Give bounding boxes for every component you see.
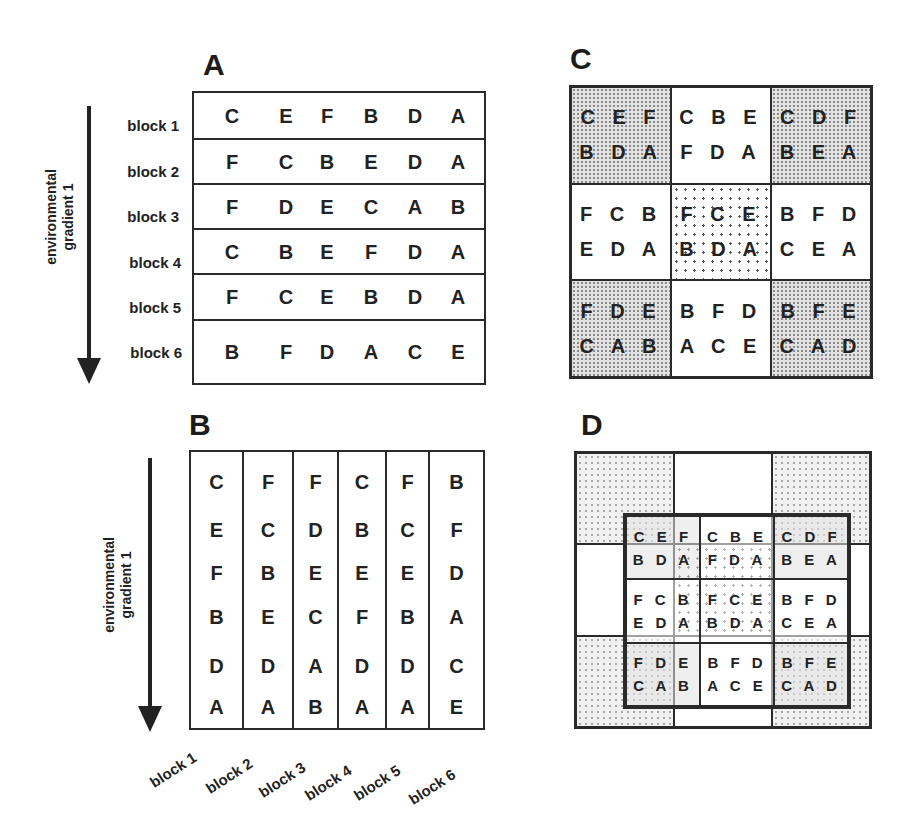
block-plot: C D F B E A: [771, 87, 871, 184]
gradient-arrow-down-icon: [138, 706, 162, 732]
block-label: block 2: [203, 754, 256, 796]
block-plot: F C E B D A: [700, 579, 774, 642]
plot-top-row: F C E: [708, 591, 766, 608]
gradient-arrow-shaft: [148, 458, 152, 712]
plot-cell: F: [401, 471, 413, 494]
block-plot: F C B E D A: [626, 579, 700, 642]
block-label: block 5: [101, 299, 181, 316]
block-row: F C B E D A: [194, 138, 484, 183]
plot-top-row: B F E: [780, 300, 861, 323]
plot-cell: C: [209, 471, 223, 494]
block-column: F C B E D A: [242, 452, 292, 728]
block-plot: C E F B D A: [571, 87, 671, 184]
axis-label-line1: environmental: [43, 147, 60, 287]
plot-bottom-row: B E A: [781, 551, 840, 568]
block-row: F C E B D A: [194, 273, 484, 318]
plot-bottom-row: E D A: [580, 238, 663, 261]
plot-cell: B: [400, 606, 414, 629]
plot-bottom-row: E D A: [633, 614, 692, 631]
block-plot: B F E C A D: [774, 643, 848, 706]
plot-bottom-row: B D A: [633, 551, 693, 568]
block-row: C B E F D A: [194, 228, 484, 273]
plot-cell: F: [226, 195, 238, 218]
plot-bottom-row: C E A: [780, 238, 863, 261]
plot-cell: A: [451, 104, 465, 127]
plot-top-row: C E F: [580, 106, 661, 129]
panel-c-label: C: [570, 42, 592, 76]
plot-cell: E: [355, 562, 368, 585]
plot-cell: D: [408, 104, 422, 127]
plot-top-row: C B E: [707, 528, 767, 545]
plot-cell: B: [261, 562, 275, 585]
plot-top-row: F C E: [680, 203, 761, 226]
panel-c-grid: C E F B D A C B E F D A C D F B E A F C …: [569, 85, 873, 379]
panel-d-label: D: [581, 408, 603, 442]
plot-cell: F: [450, 519, 462, 542]
plot-bottom-row: A C E: [707, 677, 766, 694]
plot-bottom-row: B D A: [707, 614, 767, 631]
plot-top-row: C D F: [781, 528, 840, 545]
block-column: B F D A C E: [428, 452, 483, 728]
block-plot: C B E F D A: [671, 87, 771, 184]
plot-cell: B: [451, 195, 465, 218]
plot-top-row: B F D: [680, 300, 762, 323]
block-plot: B F D A C E: [671, 280, 771, 377]
plot-cell: E: [451, 341, 464, 364]
block-label: block 1: [99, 117, 179, 134]
plot-cell: A: [451, 285, 465, 308]
block-column: C E F B D A: [191, 452, 242, 728]
plot-bottom-row: C E A: [781, 614, 840, 631]
plot-cell: F: [262, 471, 274, 494]
block-label: block 6: [102, 344, 182, 361]
block-plot: F D E C A B: [571, 280, 671, 377]
block-column: F D E C A B: [292, 452, 337, 728]
panel-b-label: B: [189, 408, 211, 442]
plot-cell: B: [225, 341, 239, 364]
plot-cell: C: [355, 471, 369, 494]
plot-top-row: B F D: [781, 591, 840, 608]
plot-cell: E: [450, 696, 463, 719]
plot-cell: F: [210, 562, 222, 585]
plot-cell: F: [365, 240, 377, 263]
plot-top-row: B F E: [782, 654, 840, 671]
plot-cell: D: [209, 655, 223, 678]
plot-cell: D: [279, 195, 293, 218]
plot-top-row: F D E: [634, 654, 692, 671]
plot-cell: E: [320, 195, 333, 218]
plot-bottom-row: C A B: [580, 335, 663, 358]
plot-bottom-row: C A D: [780, 335, 863, 358]
block-plot: C E F B D A: [626, 516, 700, 579]
plot-top-row: B F D: [707, 654, 766, 671]
plot-cell: A: [408, 195, 422, 218]
plot-cell: C: [364, 195, 378, 218]
plot-cell: B: [364, 285, 378, 308]
plot-bottom-row: F D A: [708, 551, 767, 568]
block-row: C E F B D A: [194, 93, 484, 138]
plot-cell: C: [400, 519, 414, 542]
block-label: block 4: [101, 254, 181, 271]
axis-label-line1: environmental: [101, 515, 118, 655]
plot-cell: F: [309, 471, 321, 494]
block-label: block 3: [99, 208, 179, 225]
block-plot: B F E C A D: [771, 280, 871, 377]
plot-cell: F: [280, 341, 292, 364]
block-label: block 5: [351, 761, 404, 803]
block-row: F D E C A B: [194, 183, 484, 228]
panel-b-axis-label: environmental gradient 1: [101, 515, 135, 655]
plot-cell: F: [226, 150, 238, 173]
plot-top-row: B F D: [780, 203, 862, 226]
plot-cell: B: [320, 150, 334, 173]
axis-label-line2: gradient 1: [118, 515, 135, 655]
plot-cell: A: [308, 655, 322, 678]
plot-cell: A: [451, 150, 465, 173]
plot-cell: D: [308, 519, 322, 542]
plot-cell: C: [279, 150, 293, 173]
plot-cell: A: [261, 696, 275, 719]
block-label: block 2: [99, 163, 179, 180]
plot-cell: D: [400, 655, 414, 678]
block-plot: B F D A C E: [700, 643, 774, 706]
block-column: C B E F D A: [337, 452, 385, 728]
block-label: block 6: [406, 765, 459, 807]
plot-bottom-row: F D A: [680, 141, 761, 164]
plot-bottom-row: B E A: [780, 141, 863, 164]
